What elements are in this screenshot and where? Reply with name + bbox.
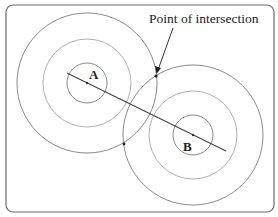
intersection-dot-top — [154, 74, 157, 77]
annotation-arrow-shaft — [158, 28, 173, 70]
center-dot-b — [192, 134, 194, 136]
point-label-b: B — [183, 139, 192, 154]
annotation-label: Point of intersection — [149, 11, 259, 26]
point-label-a: A — [89, 67, 99, 82]
diagram-canvas: Point of intersection A B — [0, 0, 278, 217]
center-dot-a — [86, 82, 88, 84]
connecting-line — [67, 73, 226, 151]
intersection-dot-bottom — [123, 143, 126, 146]
